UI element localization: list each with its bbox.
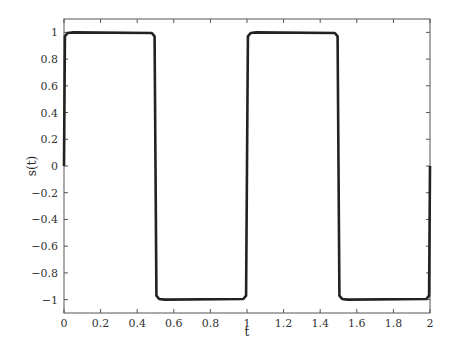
y-tick-label: −0.2 — [31, 187, 58, 200]
y-tick-label: −0.8 — [31, 267, 58, 280]
x-tick-label: 0.4 — [128, 317, 146, 330]
y-tick-label: 0.2 — [41, 133, 59, 146]
x-tick-label: 0 — [61, 317, 68, 330]
x-tick-label: 1.2 — [275, 317, 293, 330]
x-tick-label: 1.8 — [385, 317, 403, 330]
x-tick-label: 0.8 — [202, 317, 220, 330]
x-tick-label: 1.4 — [311, 317, 329, 330]
y-tick-label: 0 — [51, 160, 58, 173]
x-tick-label: 2 — [427, 317, 434, 330]
y-tick-label: 0.6 — [41, 80, 59, 93]
y-tick-label: −1 — [42, 294, 58, 307]
x-axis-label: t — [245, 325, 250, 339]
y-tick-label: 0.8 — [41, 53, 59, 66]
y-tick-label: 1 — [51, 26, 58, 39]
x-tick-label: 0.2 — [92, 317, 110, 330]
y-tick-label: −0.4 — [31, 213, 58, 226]
x-tick-label: 0.6 — [165, 317, 183, 330]
square-wave-chart: 00.20.40.60.811.21.41.61.82 10.80.60.40.… — [0, 0, 452, 354]
y-axis-label: s(t) — [25, 156, 39, 176]
x-tick-label: 1.6 — [348, 317, 366, 330]
y-tick-label: −0.6 — [31, 240, 58, 253]
y-tick-label: 0.4 — [41, 107, 59, 120]
